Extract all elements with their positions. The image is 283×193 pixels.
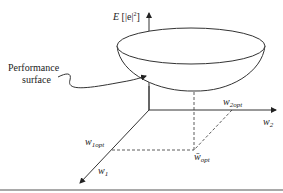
surface-label-line2: surface <box>22 75 51 85</box>
label-pointer <box>58 74 146 88</box>
wopt-symbol: w̄ <box>194 151 201 162</box>
performance-surface-diagram: E [|e|2] Performance surface w2opt w2 w1… <box>0 0 283 193</box>
w1-symbol: w <box>98 165 105 176</box>
w1opt-sub: 1opt <box>92 141 104 149</box>
wopt-sub: opt <box>201 156 210 164</box>
surface-label-line1: Performance <box>8 63 59 73</box>
w2opt-label: w2opt <box>223 97 242 109</box>
w1-label: w1 <box>98 166 108 178</box>
w2opt-sub: 2opt <box>230 101 242 109</box>
wopt-label: w̄opt <box>194 152 210 164</box>
w2-sub: 2 <box>270 121 274 129</box>
dashed-w2 <box>194 110 232 150</box>
w2-label: w2 <box>263 117 273 129</box>
w1opt-label: w1opt <box>85 137 104 149</box>
w1opt-symbol: w <box>85 136 92 147</box>
e-axis-label: E [|e|2] <box>113 11 140 22</box>
w2-symbol: w <box>263 116 270 127</box>
e-close: ] <box>136 11 139 22</box>
w2opt-symbol: w <box>223 96 230 107</box>
e-arg: [|e| <box>122 11 134 22</box>
w1-sub: 1 <box>105 170 109 178</box>
e-symbol: E <box>113 11 119 22</box>
bowl-rim <box>117 28 265 64</box>
